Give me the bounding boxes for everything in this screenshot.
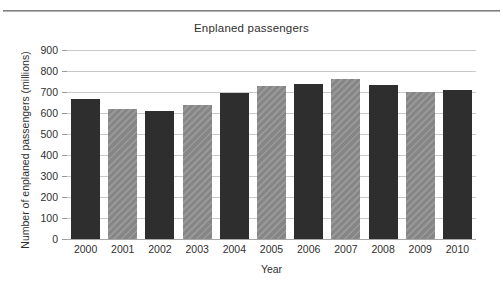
- x-axis-tick-label: 2006: [290, 243, 327, 255]
- bar-2005[interactable]: [257, 86, 286, 239]
- bar-2000[interactable]: [71, 99, 100, 239]
- axis-baseline: [67, 239, 476, 240]
- bar-2002[interactable]: [145, 111, 174, 239]
- y-axis-tick-mark: [62, 239, 67, 240]
- x-axis-tick-label: 2003: [179, 243, 216, 255]
- x-axis-tick-label: 2001: [104, 243, 141, 255]
- x-axis-tick-label: 2000: [67, 243, 104, 255]
- bar-slot: [402, 50, 439, 239]
- bar-2003[interactable]: [183, 105, 212, 239]
- bar-2010[interactable]: [443, 90, 472, 239]
- bar-2007[interactable]: [331, 79, 360, 239]
- bar-slot: [179, 50, 216, 239]
- bar-2004[interactable]: [220, 93, 249, 239]
- y-axis-tick-label: 800: [40, 65, 58, 77]
- x-axis-tick-label: 2009: [402, 243, 439, 255]
- x-axis-tick-labels: 2000200120022003200420052006200720082009…: [67, 243, 476, 255]
- x-axis-tick-label: 2004: [216, 243, 253, 255]
- y-axis-tick-label: 300: [40, 170, 58, 182]
- x-axis-title: Year: [67, 263, 476, 275]
- plot-area: 9008007006005004003002001000: [67, 50, 476, 239]
- bar-slot: [439, 50, 476, 239]
- bar-2008[interactable]: [369, 85, 398, 239]
- x-axis-tick-label: 2007: [327, 243, 364, 255]
- y-axis-tick-label: 400: [40, 149, 58, 161]
- bar-slot: [67, 50, 104, 239]
- bar-2009[interactable]: [406, 92, 435, 239]
- x-axis-tick-label: 2008: [365, 243, 402, 255]
- bar-slot: [216, 50, 253, 239]
- x-axis-tick-label: 2010: [439, 243, 476, 255]
- x-axis-tick-label: 2002: [141, 243, 178, 255]
- header-divider: [3, 10, 500, 12]
- y-axis-tick-label: 200: [40, 191, 58, 203]
- bar-slot: [290, 50, 327, 239]
- bar-slot: [104, 50, 141, 239]
- x-axis-tick-label: 2005: [253, 243, 290, 255]
- y-axis-title: Number of enplaned passengers (millions): [19, 45, 31, 255]
- chart-figure: Enplaned passengers Number of enplaned p…: [0, 0, 503, 292]
- y-axis-tick-label: 600: [40, 107, 58, 119]
- y-axis-tick-label: 0: [52, 233, 58, 245]
- bar-slot: [253, 50, 290, 239]
- bar-slot: [365, 50, 402, 239]
- chart-title: Enplaned passengers: [0, 22, 503, 34]
- bar-slot: [141, 50, 178, 239]
- bar-slot: [327, 50, 364, 239]
- bar-2001[interactable]: [108, 109, 137, 239]
- bar-series: [67, 50, 476, 239]
- y-axis-tick-label: 100: [40, 212, 58, 224]
- y-axis-tick-label: 900: [40, 44, 58, 56]
- y-axis-tick-label: 700: [40, 86, 58, 98]
- y-axis-tick-label: 500: [40, 128, 58, 140]
- bar-2006[interactable]: [294, 84, 323, 239]
